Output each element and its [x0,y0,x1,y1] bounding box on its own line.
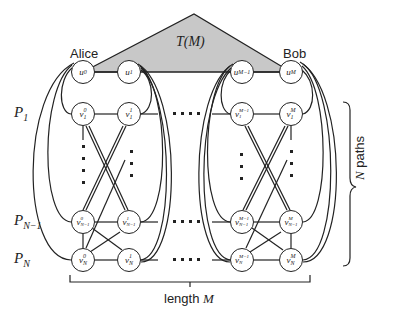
vnM1-sub: N [239,260,249,266]
node-vN-1-M-1: vM−1N−1 [230,210,254,234]
vn1M1-sub: N−1 [239,222,249,228]
pn1-base: P [14,212,23,228]
bob-label: Bob [283,46,306,61]
vn1-sup: 1 [129,253,133,260]
v10-sup: 0 [84,107,87,114]
u0-sup: 0 [84,69,87,75]
p1-base: P [14,104,23,120]
triangle-label-text: T(M) [176,34,205,49]
length-label: length M [164,291,214,307]
node-v1-M: vM1 [279,102,303,126]
node-u0: u0 [71,60,95,84]
pn-base: P [14,250,23,266]
node-vN-M: vMN [279,248,303,272]
node-v1-M-1: vM−11 [230,102,254,126]
pn-sub: N [23,258,30,269]
node-vN-1-0: v0N−1 [71,210,95,234]
node-u1: u1 [117,60,141,84]
vn1M-sub: N−1 [288,222,297,228]
v1M1-sub: 1 [239,114,249,120]
node-vN-1: v1N [117,248,141,272]
triangle-label: T(M) [176,33,205,50]
node-uM-1: uM−1 [230,60,254,84]
vn0-sub: N [83,260,87,267]
vnM-sup: M [291,253,296,260]
uM-sup: M [291,69,296,75]
path-p1-label: P1 [14,104,28,123]
alice-label: Alice [70,46,98,61]
v11-sub: 1 [130,114,133,121]
vn1-sub: N [129,260,133,267]
node-vN-1-1: v1N−1 [117,210,141,234]
node-vN-1-M: vMN−1 [279,210,303,234]
uM1-sup: M−1 [238,69,250,75]
v11-sup: 1 [130,107,133,114]
p1-sub: 1 [23,112,28,123]
length-text: length [164,291,199,306]
v1M-sup: M [291,107,296,114]
vn0-sup: 0 [83,253,87,260]
path-pn1-label: PN−1 [14,212,42,231]
pn1-sub: N−1 [23,220,41,231]
n-paths-label: N paths [352,136,368,180]
vn11-sub: N−1 [126,222,135,228]
node-vN-M-1: vM−1N [230,248,254,272]
u1-sup: 1 [130,69,133,75]
path-pn-label: PN [14,250,30,269]
node-uM: uM [279,60,303,84]
v10-sub: 1 [84,114,87,121]
node-v1-1: v11 [117,102,141,126]
vnM-sub: N [291,260,296,267]
n-paths-anchor [366,212,367,213]
node-v1-0: v01 [71,102,95,126]
node-vN-0: v0N [71,248,95,272]
paths-text: paths [352,136,367,168]
vn10-sub: N−1 [80,222,89,228]
paths-var: N [352,171,367,180]
v1M-sub: 1 [291,114,296,121]
length-var: M [203,291,214,306]
